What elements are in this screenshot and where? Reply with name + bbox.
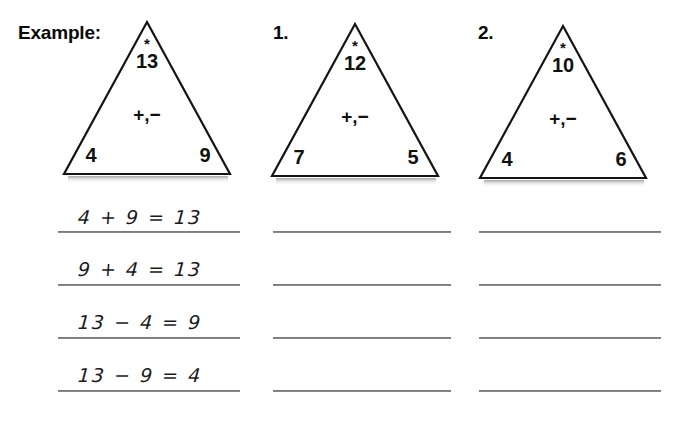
triangle-right-number: 5 (400, 146, 426, 169)
triangle-star-icon: * (62, 36, 232, 51)
triangle-operators-label: +,− (478, 108, 648, 130)
answer-line[interactable] (479, 231, 661, 233)
answer-line[interactable] (58, 337, 240, 339)
answer-line[interactable] (273, 337, 451, 339)
worksheet-page: Example: * 13 +,− 4 9 4 + 9 = 13 9 + 4 =… (0, 0, 676, 426)
answer-line[interactable] (479, 337, 661, 339)
answer-line[interactable] (58, 231, 240, 233)
answer-line[interactable] (479, 390, 661, 392)
answer-text: 9 + 4 = 13 (77, 258, 203, 280)
triangle-left-number: 4 (78, 144, 104, 167)
triangle-operators-label: +,− (270, 106, 440, 128)
answer-line[interactable] (58, 390, 240, 392)
answer-line[interactable] (58, 284, 240, 286)
triangle-star-icon: * (270, 38, 440, 53)
triangle-top-number: 10 (478, 54, 648, 77)
triangle-right-number: 9 (192, 144, 218, 167)
triangle-base-shadow (276, 178, 436, 185)
triangle-operators-label: +,− (62, 104, 232, 126)
triangle-base-shadow (68, 176, 228, 183)
triangle-base-shadow (484, 180, 644, 187)
triangle-right-number: 6 (608, 148, 634, 171)
answer-line[interactable] (479, 284, 661, 286)
number-triangle-example: * 13 +,− 4 9 (62, 8, 232, 188)
answer-text: 13 − 4 = 9 (77, 311, 203, 333)
triangle-top-number: 12 (270, 52, 440, 75)
number-triangle-2: * 10 +,− 4 6 (478, 12, 648, 192)
answer-text: 4 + 9 = 13 (77, 206, 203, 228)
answer-line[interactable] (273, 231, 451, 233)
triangle-left-number: 7 (286, 146, 312, 169)
triangle-top-number: 13 (62, 50, 232, 73)
answer-line[interactable] (273, 390, 451, 392)
answer-line[interactable] (273, 284, 451, 286)
number-triangle-1: * 12 +,− 7 5 (270, 10, 440, 190)
triangle-left-number: 4 (494, 148, 520, 171)
answer-text: 13 − 9 = 4 (77, 364, 203, 386)
triangle-star-icon: * (478, 40, 648, 55)
